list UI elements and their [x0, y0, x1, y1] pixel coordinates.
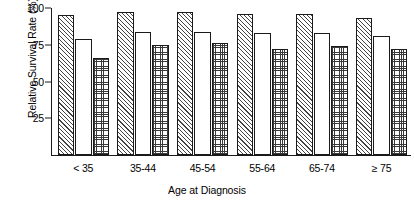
x-axis-line — [51, 155, 411, 156]
chart-figure: Relative Survival Rate (%) 255075100 < 3… — [0, 0, 414, 203]
bar — [237, 14, 254, 155]
bar — [212, 43, 229, 155]
bar — [356, 18, 373, 155]
bar-group — [356, 8, 408, 155]
bar — [93, 58, 110, 155]
bar — [331, 46, 348, 155]
bar — [391, 49, 408, 155]
bar-group — [58, 8, 110, 155]
bar-group — [117, 8, 169, 155]
x-axis-tick-label: ≥ 75 — [342, 162, 414, 174]
bar-group — [177, 8, 229, 155]
bar — [135, 32, 152, 155]
y-axis-tick-label: 50 — [33, 76, 44, 88]
bar — [58, 15, 75, 155]
bar — [75, 39, 92, 155]
bar — [254, 33, 271, 155]
bar — [373, 36, 390, 155]
bar-group — [296, 8, 348, 155]
y-axis-tick-labels: 255075100 — [0, 0, 44, 203]
bar — [296, 14, 313, 155]
bar — [314, 33, 331, 155]
y-axis-tick-mark — [45, 118, 51, 119]
plot-area — [52, 8, 410, 155]
y-axis-tick-label: 100 — [27, 2, 44, 14]
bar — [152, 45, 169, 155]
bar — [194, 32, 211, 155]
bar — [117, 12, 134, 155]
bar — [272, 49, 289, 155]
y-axis-tick-mark — [45, 8, 51, 9]
bar-group — [237, 8, 289, 155]
x-axis-title: Age at Diagnosis — [0, 184, 414, 196]
y-axis-tick-mark — [45, 44, 51, 45]
y-axis-tick-label: 25 — [33, 112, 44, 124]
bar — [177, 12, 194, 155]
y-axis-tick-mark — [45, 81, 51, 82]
y-axis-tick-label: 75 — [33, 39, 44, 51]
